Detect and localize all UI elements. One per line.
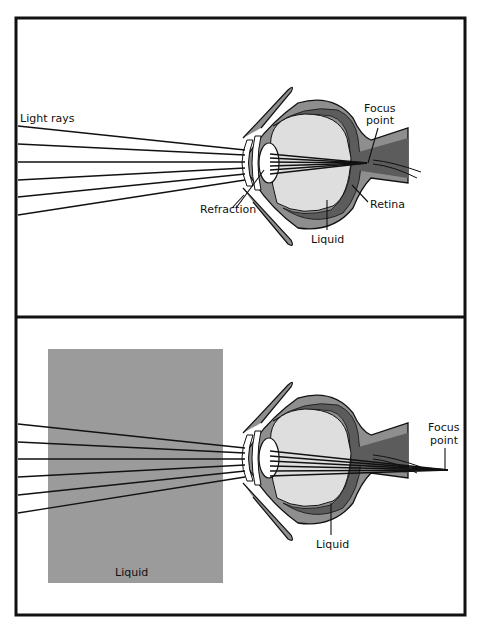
eye-refraction-diagram: Light rays Focus point Refraction Retina… (0, 0, 480, 632)
label-liquid-box: Liquid (115, 566, 148, 579)
label-focus-point-bottom-1: Focus (428, 421, 460, 434)
bottom-panel: Liquid Focus point Liquid (18, 349, 460, 583)
label-liquid-top: Liquid (311, 233, 344, 246)
label-liquid-eye-bottom: Liquid (316, 538, 349, 551)
label-light-rays: Light rays (20, 112, 75, 125)
label-focus-point-bottom-2: point (430, 434, 459, 447)
label-retina: Retina (370, 198, 405, 211)
top-panel: Light rays Focus point Refraction Retina… (18, 87, 421, 246)
liquid-box (48, 349, 223, 583)
label-refraction: Refraction (200, 203, 256, 216)
label-focus-point-top-2: point (366, 114, 395, 127)
